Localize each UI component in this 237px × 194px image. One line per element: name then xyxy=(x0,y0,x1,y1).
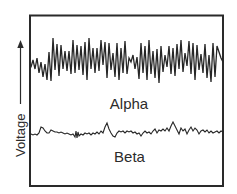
voltage-axis-label: Voltage xyxy=(13,114,28,157)
beta-label: Beta xyxy=(114,148,146,165)
alpha-label: Alpha xyxy=(110,95,149,112)
beta-waveform xyxy=(31,122,223,138)
eeg-wave-diagram: Voltage Alpha Beta xyxy=(0,0,237,194)
alpha-waveform xyxy=(31,38,223,83)
voltage-arrow-icon xyxy=(17,40,23,104)
